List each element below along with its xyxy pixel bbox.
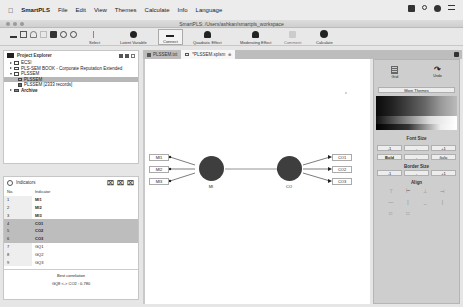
border-size-reset-button[interactable]: - bbox=[404, 170, 429, 176]
border-size-increase-button[interactable]: +1 bbox=[431, 170, 456, 176]
calculate-button[interactable]: Calculate bbox=[316, 29, 333, 45]
align-left-icon[interactable]: ⊢ bbox=[399, 188, 416, 194]
project-explorer-panel: Project Explorer ECSI PLS-SEM BOOK - Cor… bbox=[3, 50, 139, 164]
filter-icon[interactable]: ⌧ bbox=[117, 179, 124, 186]
align-center-vertical-icon[interactable]: ⊥ bbox=[417, 188, 434, 194]
menu-calculate[interactable]: Calculate bbox=[145, 7, 170, 13]
normal-style-button[interactable]: - bbox=[404, 154, 429, 160]
latent-variable-co[interactable] bbox=[277, 156, 302, 181]
table-row[interactable]: 9GQ3 bbox=[4, 258, 138, 266]
star-icon[interactable] bbox=[131, 54, 135, 58]
select-button[interactable]: Select bbox=[89, 29, 100, 45]
menu-app-name[interactable]: SmartPLS bbox=[21, 7, 50, 13]
best-correlation-value: GQ8 <-> CO2 : 0.780 bbox=[4, 280, 138, 288]
zoom-out-icon[interactable] bbox=[70, 31, 77, 38]
siri-icon[interactable] bbox=[434, 5, 441, 12]
theme-swatches[interactable] bbox=[376, 96, 457, 130]
more-themes-button[interactable]: More Themes bbox=[378, 87, 455, 93]
model-icon bbox=[18, 78, 22, 82]
filter-icon[interactable]: ⌧ bbox=[107, 179, 114, 186]
table-row[interactable]: 6CO3 bbox=[4, 235, 138, 243]
indicator-box-mi1[interactable]: MI1 bbox=[149, 154, 169, 161]
filter-icon[interactable]: ⌧ bbox=[127, 179, 134, 186]
font-size-decrease-button[interactable]: -1 bbox=[377, 145, 402, 151]
new-project-icon[interactable] bbox=[119, 54, 123, 58]
status-app-icon[interactable] bbox=[408, 5, 415, 12]
expand-icon[interactable] bbox=[10, 62, 12, 64]
column-header-no[interactable]: No. bbox=[4, 188, 32, 196]
table-row[interactable]: 4CO1 bbox=[4, 219, 138, 227]
align-top-icon[interactable]: ⊤ bbox=[382, 188, 399, 194]
table-row[interactable]: 3MI3 bbox=[4, 211, 138, 219]
border-size-decrease-button[interactable]: -1 bbox=[377, 170, 402, 176]
user-icon[interactable] bbox=[30, 31, 37, 38]
download-icon[interactable] bbox=[10, 31, 17, 38]
search-icon[interactable] bbox=[422, 5, 427, 10]
indicator-box-co1[interactable]: CO1 bbox=[332, 154, 352, 161]
align-center-horizontal-icon[interactable]: | bbox=[399, 199, 416, 205]
close-tab-icon[interactable]: ⊛ bbox=[228, 52, 231, 57]
distribute-vertical-icon[interactable]: □ bbox=[399, 210, 416, 216]
align-right-icon[interactable]: ⊣ bbox=[434, 188, 451, 194]
latent-variable-label-co: CO bbox=[279, 184, 299, 189]
quadratic-effect-button[interactable]: Quadratic Effect bbox=[193, 29, 222, 45]
table-row[interactable]: 2MI2 bbox=[4, 204, 138, 212]
align-edge-icon[interactable]: | bbox=[434, 199, 451, 205]
apple-icon[interactable]:  bbox=[8, 7, 13, 14]
indicator-box-mi3[interactable]: MI3 bbox=[149, 178, 169, 185]
table-row[interactable]: 8GQ2 bbox=[4, 250, 138, 258]
import-icon[interactable] bbox=[125, 54, 129, 58]
menu-file[interactable]: File bbox=[58, 7, 68, 13]
collapse-icon[interactable] bbox=[10, 73, 12, 75]
align-bottom-icon[interactable]: _ bbox=[417, 199, 434, 205]
folder-icon bbox=[7, 53, 14, 58]
indicator-box-mi2[interactable]: MI2 bbox=[149, 166, 169, 173]
moderating-effect-button[interactable]: Moderating Effect bbox=[240, 29, 271, 45]
latent-variable-button[interactable]: Latent Variable bbox=[120, 29, 147, 45]
font-size-title: Font Size bbox=[374, 135, 459, 142]
indicator-box-co3[interactable]: CO3 bbox=[332, 178, 352, 185]
border-size-title: Border Size bbox=[374, 163, 459, 170]
menu-list-icon[interactable] bbox=[448, 5, 455, 10]
image-icon[interactable] bbox=[20, 31, 27, 38]
menu-view[interactable]: View bbox=[94, 7, 107, 13]
paint-bucket-icon[interactable] bbox=[50, 31, 57, 38]
project-icon bbox=[14, 72, 19, 76]
menu-language[interactable]: Language bbox=[196, 7, 223, 13]
table-row[interactable]: 7GQ1 bbox=[4, 243, 138, 251]
model-canvas[interactable]: MI1 MI2 MI3 MI CO CO1 CO2 CO3 bbox=[143, 59, 370, 304]
grid-button[interactable]: Grid bbox=[391, 66, 398, 85]
distribute-horizontal-icon[interactable]: □ bbox=[382, 210, 399, 216]
tab-plssem-splsm[interactable]: *PLSSEM.splsm ⊛ bbox=[181, 50, 235, 59]
best-correlation-label: Best correlation bbox=[4, 272, 138, 280]
latent-variable-mi[interactable] bbox=[199, 156, 224, 181]
tree-item-archive[interactable]: Archive bbox=[4, 88, 138, 94]
comment-icon bbox=[289, 31, 296, 38]
indicator-box-co2[interactable]: CO2 bbox=[332, 166, 352, 173]
align-middle-icon[interactable]: — bbox=[382, 199, 399, 205]
window-titlebar: SmartPLS: /Users/ashkan/smartpls_workspa… bbox=[0, 20, 463, 28]
font-size-increase-button[interactable]: +1 bbox=[431, 145, 456, 151]
table-row[interactable]: 5CO2 bbox=[4, 227, 138, 235]
project-icon bbox=[14, 61, 19, 65]
table-row[interactable]: 1MI1 bbox=[4, 196, 138, 204]
expand-icon[interactable] bbox=[10, 89, 12, 91]
zoom-in-icon[interactable] bbox=[60, 31, 67, 38]
italic-button[interactable]: Italic bbox=[431, 154, 456, 160]
undo-button[interactable]: ↷ Undo bbox=[433, 66, 441, 85]
menu-info[interactable]: Info bbox=[178, 7, 188, 13]
moderating-effect-icon bbox=[252, 31, 259, 38]
font-size-reset-button[interactable]: - bbox=[404, 145, 429, 151]
menu-themes[interactable]: Themes bbox=[115, 7, 137, 13]
indicators-title: Indicators bbox=[16, 180, 36, 185]
comment-button[interactable]: Comment bbox=[284, 29, 301, 45]
menu-edit[interactable]: Edit bbox=[76, 7, 86, 13]
connect-button[interactable]: Connect bbox=[158, 29, 183, 45]
maximize-icon[interactable] bbox=[454, 52, 459, 57]
expand-icon[interactable] bbox=[10, 67, 12, 69]
column-header-indicator[interactable]: Indicator bbox=[32, 188, 138, 196]
tab-plssem-txt[interactable]: PLSSEM.txt bbox=[143, 50, 181, 59]
copy-icon[interactable] bbox=[40, 31, 47, 38]
window-title: SmartPLS: /Users/ashkan/smartpls_workspa… bbox=[0, 21, 463, 27]
bold-button[interactable]: Bold bbox=[377, 154, 402, 160]
